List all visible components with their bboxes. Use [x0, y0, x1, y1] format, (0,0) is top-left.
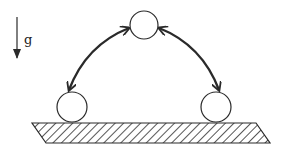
- gravity-label: g: [24, 32, 32, 47]
- ball-top: [130, 11, 158, 39]
- left-arc-arrow: [69, 28, 129, 90]
- gravity-indicator: g: [17, 17, 32, 58]
- right-arc-arrow: [159, 28, 219, 90]
- diagram-canvas: g: [0, 0, 283, 158]
- ball-left: [57, 92, 87, 122]
- ball-right: [201, 92, 231, 122]
- ground-surface: [32, 123, 270, 143]
